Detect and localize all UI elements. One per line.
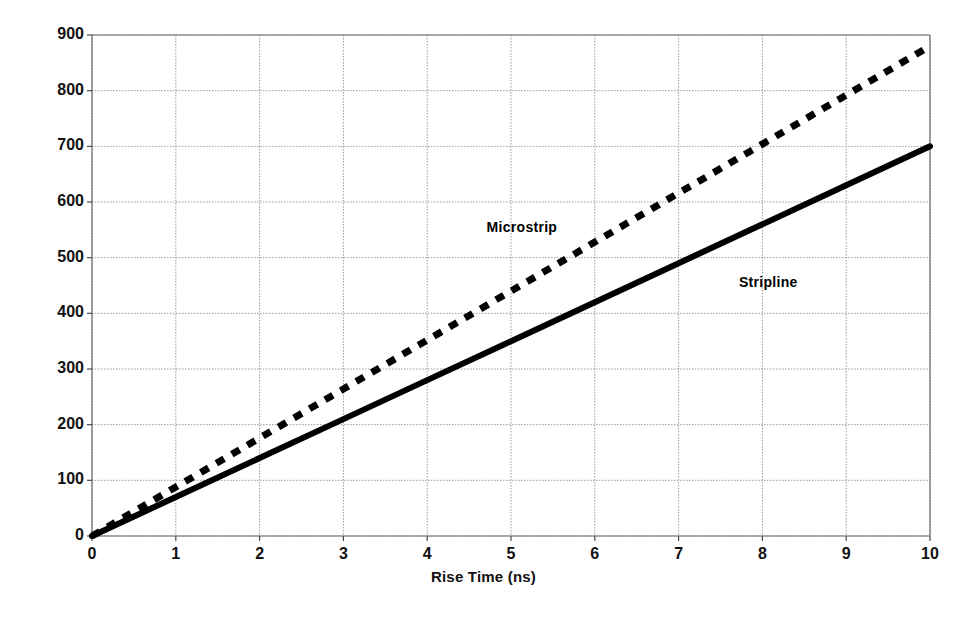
plot-area <box>0 0 967 623</box>
x-tick-label: 3 <box>323 545 363 563</box>
y-tick-label-text: 800 <box>38 81 84 99</box>
x-tick-label: 10 <box>910 545 950 563</box>
x-tick-label: 8 <box>742 545 782 563</box>
x-tick-label: 5 <box>491 545 531 563</box>
y-tick-label-text: 900 <box>38 25 84 43</box>
y-tick-label-text: 100 <box>38 470 84 488</box>
y-tick-label-text: 300 <box>38 359 84 377</box>
x-tick-label: 6 <box>575 545 615 563</box>
y-tick-label-text: 200 <box>38 415 84 433</box>
y-tick-label-text: 400 <box>38 303 84 321</box>
series-label-stripline: Stripline <box>739 274 798 290</box>
x-tick-label: 2 <box>240 545 280 563</box>
series-line-stripline <box>92 146 930 536</box>
x-tick-label: 1 <box>156 545 196 563</box>
x-tick-label: 4 <box>407 545 447 563</box>
y-tick-label-text: 500 <box>38 248 84 266</box>
x-tick-label: 7 <box>659 545 699 563</box>
x-axis-title: Rise Time (ns) <box>0 568 967 585</box>
y-tick-label-text: 600 <box>38 192 84 210</box>
axis-tick-marks <box>87 35 930 541</box>
y-tick-label-text: 0 <box>38 526 84 544</box>
x-tick-label: 0 <box>72 545 112 563</box>
x-tick-label: 9 <box>826 545 866 563</box>
chart-figure: Critical Length (mm) Rise Time (ns) 0100… <box>0 0 967 623</box>
series-label-microstrip: Microstrip <box>487 219 558 235</box>
y-tick-label-text: 700 <box>38 136 84 154</box>
